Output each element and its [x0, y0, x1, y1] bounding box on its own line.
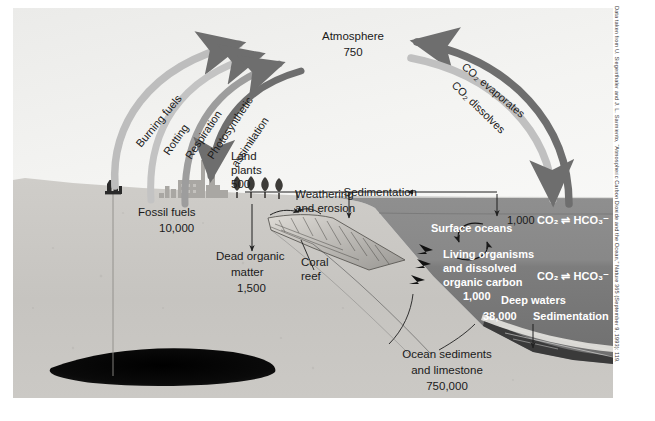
label-dead-organic-value: 1,500	[237, 282, 266, 294]
label-living-organisms-line2: and dissolved	[443, 262, 516, 274]
label-ocean-sediments-line1: Ocean sediments	[402, 348, 492, 360]
label-land-plants-value: 500	[231, 178, 250, 190]
label-fossil-fuels-value: 10,000	[159, 222, 194, 234]
label-dead-organic-line2: matter	[231, 266, 264, 278]
label-surface-oceans-value: 1,000	[507, 214, 535, 226]
label-ocean-sediments-value: 750,000	[426, 380, 468, 392]
figure-source-citation: Data taken from U. Siegenthaler and J. L…	[614, 6, 628, 401]
label-ocean-sediments-line2: and limestone	[411, 364, 483, 376]
diagram-svg: Atmosphere 750 Land plants 500 Fossil fu…	[13, 8, 613, 398]
label-fossil-fuels: Fossil fuels	[138, 206, 196, 218]
label-weathering-line2: and erosion	[295, 202, 355, 214]
carbon-cycle-diagram: Atmosphere 750 Land plants 500 Fossil fu…	[13, 8, 613, 398]
label-atmosphere: Atmosphere	[322, 30, 384, 42]
label-atmosphere-value: 750	[343, 46, 362, 58]
label-dead-organic-line1: Dead organic	[216, 250, 285, 262]
label-sedimentation-top: Sedimentation	[343, 186, 417, 198]
citation-text: Data taken from U. Siegenthaler and J. L…	[614, 6, 620, 401]
label-co2-bicarbonate-surface: CO₂ ⇌ HCO₃⁻	[537, 214, 609, 226]
label-sedimentation-deep: Sedimentation	[533, 310, 609, 322]
label-living-organisms-line3: organic carbon	[443, 276, 523, 288]
label-surface-oceans: Surface oceans	[431, 222, 512, 234]
label-living-organisms-value: 1,000	[463, 290, 491, 302]
label-deep-waters: Deep waters	[501, 294, 566, 306]
label-coral-line1: Coral	[301, 256, 328, 268]
label-living-organisms-line1: Living organisms	[443, 248, 534, 260]
carbon-cycle-figure-canvas: Atmosphere 750 Land plants 500 Fossil fu…	[0, 0, 655, 421]
label-deep-waters-value: 38,000	[483, 310, 517, 322]
label-co2-bicarbonate-deep: CO₂ ⇌ HCO₃⁻	[537, 270, 609, 282]
label-coral-line2: reef	[301, 270, 322, 282]
